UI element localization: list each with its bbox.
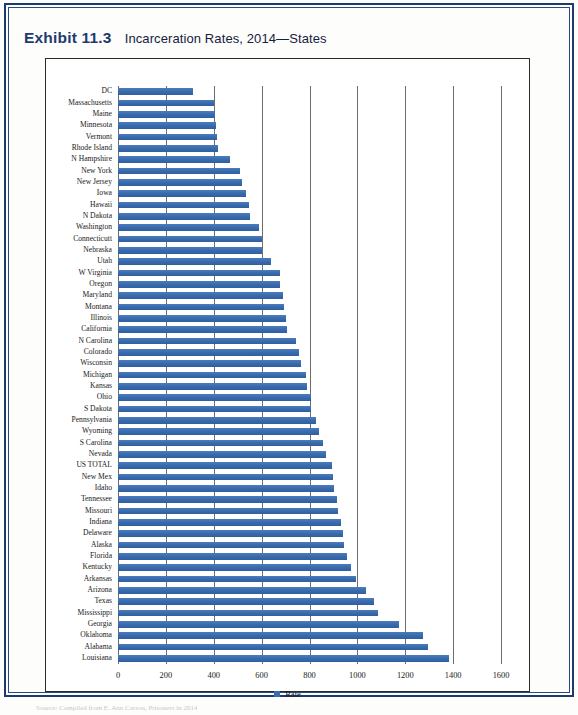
- bar: [118, 224, 259, 230]
- chart-plot-wrapper: DCMassachusettsMaineMinnesotaVermontRhod…: [46, 59, 529, 691]
- bar: [118, 134, 217, 140]
- category-label: Missouri: [85, 507, 112, 515]
- bar: [118, 383, 307, 389]
- category-label: Hawaii: [90, 201, 112, 209]
- category-label: Alabama: [85, 643, 112, 651]
- category-label: New Mex: [82, 473, 112, 481]
- bar: [118, 462, 332, 468]
- bar: [118, 440, 323, 446]
- category-label: Louisiana: [82, 654, 112, 662]
- category-label: DC: [101, 87, 112, 95]
- bar: [118, 406, 311, 412]
- exhibit-title: Incarceration Rates, 2014—States: [125, 31, 327, 46]
- bar: [118, 190, 246, 196]
- bar: [118, 88, 193, 94]
- plot-area: [118, 86, 501, 664]
- category-label: Iowa: [97, 189, 112, 197]
- category-label: Maine: [93, 110, 112, 118]
- category-label: Colorado: [84, 348, 112, 356]
- category-label: Oklahoma: [80, 631, 112, 639]
- category-label: Kansas: [90, 382, 112, 390]
- bar: [118, 428, 319, 434]
- category-label: Washington: [76, 223, 112, 231]
- gridline-1400: [453, 86, 454, 664]
- bar: [118, 394, 311, 400]
- bar: [118, 326, 287, 332]
- category-label: Maryland: [82, 291, 112, 299]
- x-tick-1200: 1200: [397, 671, 414, 680]
- bar: [118, 360, 301, 366]
- x-tick-1600: 1600: [493, 671, 510, 680]
- category-label: Nebraska: [83, 246, 112, 254]
- category-label: Idaho: [95, 484, 112, 492]
- category-label: Connecticutt: [73, 235, 112, 243]
- category-label: W Virginia: [78, 269, 112, 277]
- bar: [118, 655, 449, 661]
- category-label: Vermont: [86, 133, 112, 141]
- category-label: Wyoming: [82, 427, 112, 435]
- category-label: US TOTAL: [76, 461, 112, 469]
- category-label: Nevada: [89, 450, 112, 458]
- bar: [118, 236, 262, 242]
- bar: [118, 168, 240, 174]
- category-label: Michigan: [83, 371, 112, 379]
- bar: [118, 542, 344, 548]
- category-label: Indiana: [89, 518, 112, 526]
- bar: [118, 258, 271, 264]
- bar: [118, 292, 283, 298]
- bar: [118, 530, 343, 536]
- category-label: Arkansas: [84, 575, 112, 583]
- category-label: Ohio: [97, 393, 112, 401]
- x-tick-1000: 1000: [349, 671, 366, 680]
- category-label: Montana: [85, 303, 112, 311]
- category-label: New Jersey: [77, 178, 112, 186]
- source-note: Source: Compiled from E. Ann Carson, Pri…: [36, 704, 197, 714]
- category-label: California: [81, 325, 112, 333]
- x-tick-0: 0: [116, 671, 120, 680]
- category-label: N Dakota: [83, 212, 112, 220]
- bar: [118, 247, 262, 253]
- x-axis-tick-labels: 02004006008001000120014001600: [118, 671, 501, 687]
- category-label: Illinois: [90, 314, 112, 322]
- bar: [118, 372, 306, 378]
- category-label: Minnesota: [80, 121, 112, 129]
- category-label: Delaware: [83, 529, 112, 537]
- category-label: Tennessee: [81, 495, 112, 503]
- x-tick-1400: 1400: [445, 671, 462, 680]
- category-label: Alaska: [91, 541, 112, 549]
- bar: [118, 270, 280, 276]
- gridline-1000: [357, 86, 358, 664]
- bar: [118, 621, 399, 627]
- category-label: N Carolina: [78, 337, 112, 345]
- bar: [118, 179, 242, 185]
- bar: [118, 304, 284, 310]
- bar: [118, 496, 337, 502]
- category-label: New York: [81, 167, 112, 175]
- bar: [118, 610, 378, 616]
- bar: [118, 111, 215, 117]
- bar: [118, 451, 326, 457]
- bar: [118, 338, 296, 344]
- category-label: Florida: [90, 552, 112, 560]
- bar: [118, 598, 374, 604]
- category-label: N Hampshire: [71, 155, 112, 163]
- bar: [118, 122, 216, 128]
- bar: [118, 417, 316, 423]
- bar: [118, 485, 334, 491]
- category-label: Wisconsin: [80, 359, 112, 367]
- category-label: Kentucky: [82, 563, 112, 571]
- gridline-1600: [501, 86, 502, 664]
- bar: [118, 349, 299, 355]
- exhibit-number: Exhibit 11.3: [24, 29, 112, 47]
- bar: [118, 644, 428, 650]
- bar: [118, 519, 341, 525]
- category-label: S Dakota: [84, 405, 112, 413]
- x-tick-400: 400: [207, 671, 220, 680]
- bar: [118, 576, 356, 582]
- category-label: Arizona: [88, 586, 112, 594]
- category-label: Texas: [94, 597, 112, 605]
- chart-legend: Rate: [46, 689, 529, 699]
- category-label: Rhode Island: [72, 144, 112, 152]
- category-label: S Carolina: [80, 439, 112, 447]
- bar: [118, 202, 249, 208]
